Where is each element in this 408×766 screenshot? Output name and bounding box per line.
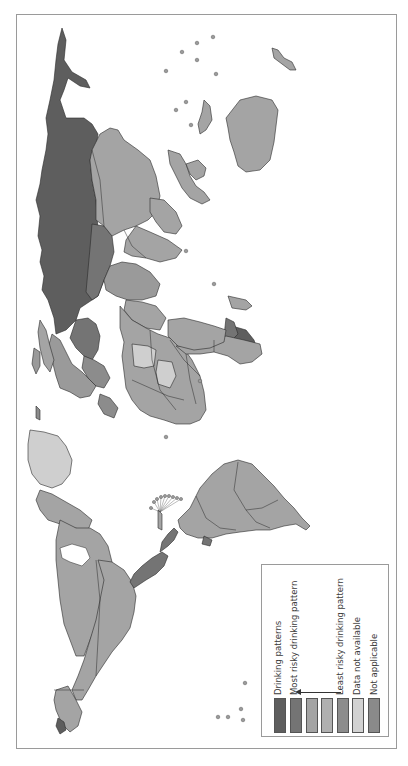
region-iberia bbox=[98, 394, 118, 418]
legend-swatch-level-2 bbox=[290, 698, 302, 733]
legend-swatch-level-4 bbox=[321, 698, 333, 733]
region-uk bbox=[32, 348, 40, 374]
region-new-zealand bbox=[272, 48, 296, 70]
legend-title: Drinking patterns bbox=[273, 621, 283, 695]
region-iceland bbox=[36, 406, 40, 420]
legend-box: Drinking patterns Most risky drinking pa… bbox=[261, 564, 389, 737]
region-south-america bbox=[178, 460, 310, 538]
region-central-america bbox=[160, 528, 178, 552]
legend-not-applicable-label: Not applicable bbox=[369, 634, 379, 695]
region-australia bbox=[226, 96, 278, 172]
legend-swatch-not-applicable bbox=[368, 698, 380, 733]
region-middle-east bbox=[104, 262, 160, 300]
legend-arrow-head-icon bbox=[295, 689, 301, 695]
legend-swatch-level-3 bbox=[306, 698, 318, 733]
region-caribbean-island bbox=[158, 510, 162, 530]
caribbean-callout bbox=[149, 494, 182, 512]
region-madagascar bbox=[228, 296, 252, 310]
legend-least-risky-label: Least risky drinking pattern bbox=[335, 578, 345, 695]
legend-swatch-level-5 bbox=[337, 698, 349, 733]
region-southeast-asia bbox=[150, 198, 182, 234]
region-japan bbox=[198, 100, 212, 134]
region-china bbox=[90, 128, 160, 236]
legend-risk-arrow bbox=[299, 692, 341, 693]
legend-swatch-level-1 bbox=[274, 698, 286, 733]
legend-most-risky-label: Most risky drinking pattern bbox=[289, 581, 299, 695]
legend-swatch-data-not-available bbox=[352, 698, 364, 733]
region-mexico bbox=[130, 552, 168, 588]
region-greenland bbox=[28, 430, 72, 488]
legend-data-not-available-label: Data not available bbox=[352, 617, 362, 695]
region-eastern-europe bbox=[70, 318, 100, 360]
region-indonesia bbox=[168, 150, 210, 204]
